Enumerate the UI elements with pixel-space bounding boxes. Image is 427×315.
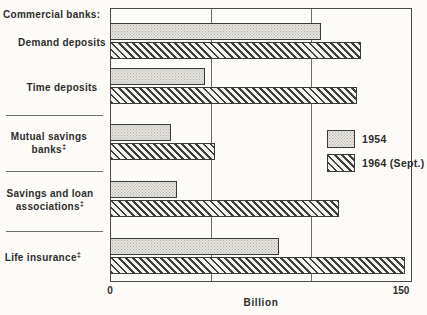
x-axis-title: Billion — [211, 297, 311, 308]
footnote-marker: ‡ — [77, 250, 81, 259]
bar-1964-sept-demand-deposits — [111, 42, 361, 59]
group-separator-3 — [6, 231, 103, 232]
footnote-marker: ‡ — [62, 142, 66, 151]
bar-1964-sept-time-deposits — [111, 87, 357, 104]
legend-label-1954: 1954 — [362, 130, 387, 148]
bar-1954-savings-and-loan-associations — [111, 181, 177, 198]
bar-1954-time-deposits — [111, 68, 205, 85]
group-header-commercial-banks: Commercial banks: — [3, 9, 100, 20]
category-label-time-deposits: Time deposits — [9, 81, 115, 94]
category-label-savings-and-loan-associations: Savings and loanassociations‡ — [0, 187, 103, 213]
category-label-mutual-savings-banks: Mutual savingsbanks‡ — [0, 130, 102, 156]
group-separator-1 — [6, 115, 103, 116]
bar-1954-demand-deposits — [111, 23, 321, 40]
group-separator-2 — [6, 171, 103, 172]
footnote-marker: ‡ — [80, 199, 84, 208]
bar-1964-sept-savings-and-loan-associations — [111, 200, 339, 217]
x-tick-0: 0 — [95, 285, 125, 296]
category-label-life-insurance: Life insurance‡ — [0, 251, 96, 264]
legend-label-1964-sept: 1964 (Sept.) — [362, 154, 425, 172]
bar-1954-life-insurance — [111, 238, 279, 255]
bar-1954-mutual-savings-banks — [111, 124, 171, 141]
x-tick-150: 150 — [386, 285, 416, 296]
category-label-demand-deposits: Demand deposits — [9, 36, 115, 49]
bar-1964-sept-life-insurance — [111, 257, 405, 274]
legend-swatch-1954 — [327, 130, 355, 148]
bar-1964-sept-mutual-savings-banks — [111, 143, 215, 160]
bar-chart: Commercial banks: Demand depositsTime de… — [0, 0, 427, 315]
legend-swatch-1964-sept — [327, 154, 355, 172]
